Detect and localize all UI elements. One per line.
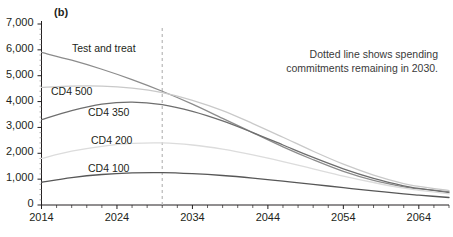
x-tick-label: 2064 (396, 211, 442, 223)
y-tick-label: 3,000 (0, 119, 34, 131)
y-tick-label: 1,000 (0, 171, 34, 183)
series-label-cd4-100: CD4 100 (88, 162, 129, 174)
series-label-cd4-200: CD4 200 (91, 134, 132, 146)
chart-container: (b) Dotted line shows spending commitmen… (0, 0, 453, 237)
y-tick-label: 6,000 (0, 42, 34, 54)
y-tick-label: 4,000 (0, 94, 34, 106)
x-tick-label: 2054 (320, 211, 366, 223)
y-tick-label: 7,000 (0, 16, 34, 28)
x-tick-label: 2044 (245, 211, 291, 223)
series-lines (42, 52, 450, 197)
x-tick-label: 2034 (169, 211, 215, 223)
x-tick-label: 2014 (19, 211, 65, 223)
x-tick-label: 2024 (94, 211, 140, 223)
series-label-cd4-350: CD4 350 (88, 106, 129, 118)
y-tick-label: 2,000 (0, 145, 34, 157)
y-tick-label: 5,000 (0, 68, 34, 80)
plot-area (0, 0, 453, 237)
y-tick-label: 0 (0, 197, 34, 209)
series-label-test-and-treat: Test and treat (72, 42, 136, 54)
series-label-cd4-500: CD4 500 (51, 85, 92, 97)
